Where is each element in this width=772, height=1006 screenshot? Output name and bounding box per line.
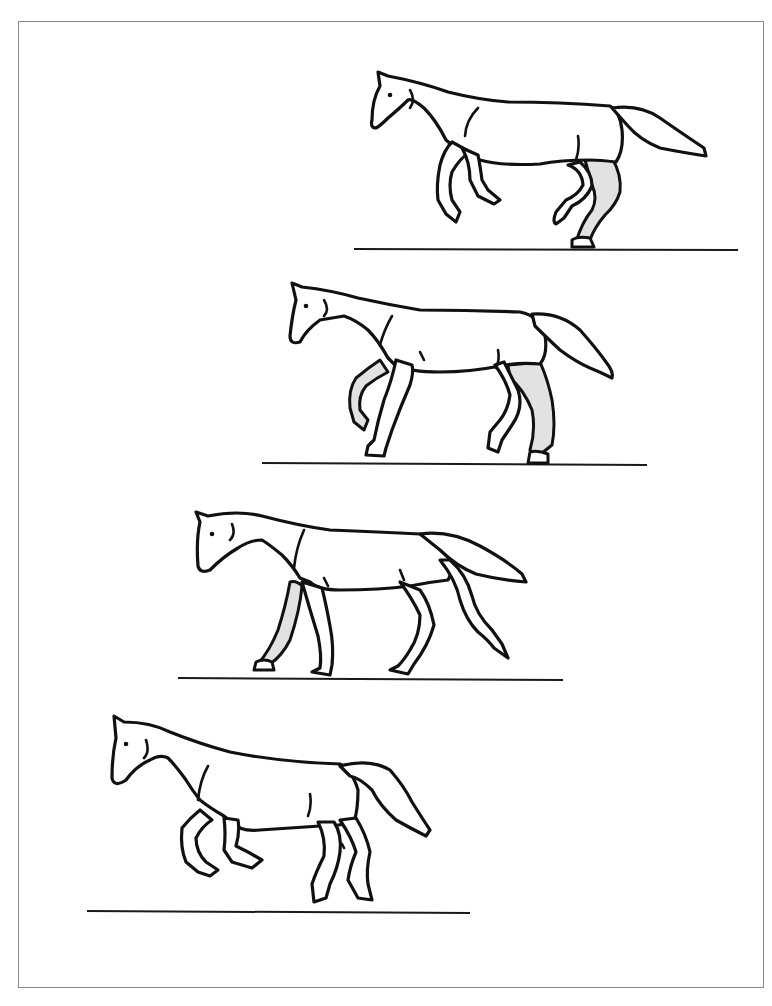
hoof [528,451,548,463]
hind-leg [554,162,592,224]
shaded-fore-leg [258,582,302,665]
horse-figure-4 [87,716,470,913]
horse-figure-1 [354,72,738,250]
tail [612,107,706,156]
hind-leg [340,818,372,900]
horse-body [290,283,546,372]
horse-figure-3 [178,512,563,680]
ground-line-4 [87,911,470,913]
horse-gait-illustration [0,0,772,1006]
fore-leg [182,810,219,876]
hoof [254,660,274,670]
eye [124,742,129,747]
ground-line-1 [354,249,738,250]
hoof [572,237,594,247]
hind-leg [390,582,434,674]
fore-leg [302,582,333,675]
horse-figure-2 [262,283,647,465]
horse-body [112,716,358,830]
hind-leg [312,822,340,902]
eye [388,93,393,98]
eye [210,532,215,537]
ground-line-2 [262,463,647,465]
eye [304,304,309,309]
horse-body [372,72,623,165]
ground-line-3 [178,678,563,680]
